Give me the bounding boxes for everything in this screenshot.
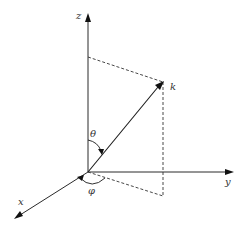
k-vector	[88, 81, 164, 172]
y-axis	[88, 169, 234, 175]
z-axis-arrowhead-icon	[85, 13, 91, 22]
k-vector-label: k	[170, 82, 176, 92]
spherical-coordinates-diagram	[0, 0, 242, 231]
z-axis-label: z	[76, 11, 81, 21]
theta-label: θ	[90, 129, 96, 139]
xy-plane-projection-line	[88, 172, 163, 196]
x-axis-label: x	[18, 197, 24, 207]
y-axis-label: y	[225, 177, 231, 187]
x-axis	[14, 172, 88, 219]
x-axis-arrowhead-icon	[14, 211, 23, 219]
y-axis-arrowhead-icon	[225, 169, 234, 175]
z-axis	[85, 13, 91, 172]
theta-angle-arc	[88, 140, 104, 155]
phi-label: φ	[88, 186, 95, 196]
z-projection-line	[88, 57, 163, 82]
phi-angle-arc	[77, 175, 105, 184]
